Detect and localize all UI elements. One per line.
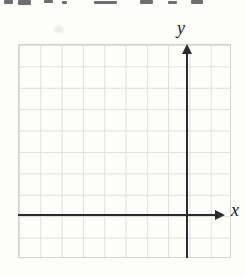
scan-smudge-artifact bbox=[54, 26, 64, 33]
text-fragment-mark bbox=[18, 0, 31, 5]
text-fragment-mark bbox=[62, 1, 67, 4]
y-axis-label: y bbox=[177, 19, 185, 37]
text-fragment-mark bbox=[44, 0, 53, 3]
text-fragment-mark bbox=[94, 1, 117, 4]
grid-area bbox=[18, 44, 231, 258]
text-fragment-mark bbox=[168, 1, 177, 4]
text-fragment-mark bbox=[140, 0, 153, 4]
x-axis-line bbox=[18, 214, 216, 216]
x-axis-label: x bbox=[231, 201, 239, 219]
text-fragment-mark bbox=[4, 0, 13, 4]
x-axis-arrowhead-icon bbox=[215, 210, 225, 220]
y-axis-line bbox=[186, 52, 188, 258]
cropped-text-artifact bbox=[0, 0, 246, 6]
y-axis-arrowhead-icon bbox=[182, 44, 192, 54]
text-fragment-mark bbox=[191, 0, 203, 4]
coordinate-plane-figure: y x bbox=[0, 0, 246, 277]
